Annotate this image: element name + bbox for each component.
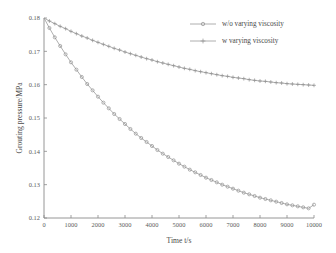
y-axis-title: Grouting pressure/MPa [15,82,24,154]
legend-label-1: w varying viscosity [222,37,279,45]
y-tick-label: 0.17 [29,48,41,55]
y-tick-label: 0.13 [29,181,40,188]
y-tick-label: 0.15 [29,114,40,121]
legend-label-0: w/o varying viscosity [222,20,284,28]
x-tick-label: 0 [42,221,45,228]
chart-background [0,0,336,253]
chart-figure: 0100020003000400050006000700080009000100… [0,0,336,253]
x-tick-label: 4000 [146,221,159,228]
x-tick-label: 7000 [227,221,240,228]
x-tick-label: 6000 [200,221,213,228]
x-tick-label: 2000 [92,221,105,228]
line-chart: 0100020003000400050006000700080009000100… [0,0,336,253]
x-tick-label: 1000 [65,221,78,228]
x-axis-title: Time t/s [167,236,192,245]
y-tick-label: 0.16 [29,81,40,88]
x-tick-label: 3000 [119,221,132,228]
x-tick-label: 8000 [254,221,267,228]
x-tick-label: 10000 [306,221,322,228]
y-tick-label: 0.14 [29,148,41,155]
x-tick-label: 9000 [281,221,294,228]
x-tick-label: 5000 [173,221,186,228]
y-tick-label: 0.18 [29,14,40,21]
y-tick-label: 0.12 [29,214,40,221]
